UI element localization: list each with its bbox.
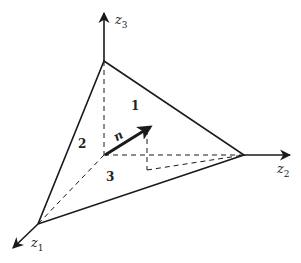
oblique-face <box>38 61 244 224</box>
projection-diagonal <box>147 155 244 170</box>
axis-label-z3: z3 <box>114 12 128 30</box>
normal-vector-label: n <box>111 128 126 144</box>
axis-label-z1: z1 <box>30 235 44 253</box>
face-label-3: 3 <box>106 170 114 184</box>
axis-label-z2: z2 <box>276 161 290 179</box>
tetrahedron-diagram: z3 z2 z1 1 2 3 n <box>0 0 301 263</box>
face-label-1: 1 <box>131 99 139 113</box>
face-label-2: 2 <box>78 137 86 151</box>
